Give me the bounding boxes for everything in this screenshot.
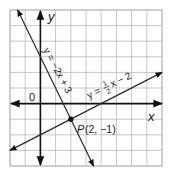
point-coords-label: (2, −1)	[85, 123, 116, 135]
intersection-point	[68, 117, 73, 122]
line2-equation-label: y = 1 2 x − 2	[84, 68, 135, 104]
coordinate-graph: y x 0 y = −2x + 3 y = 1 2 x − 2 P (2, −1…	[0, 0, 169, 174]
grid	[10, 10, 162, 166]
point-name-label: P	[77, 123, 85, 135]
line2-frac-num: 1	[101, 79, 108, 87]
x-axis-label: x	[147, 109, 155, 124]
origin-label: 0	[29, 91, 35, 103]
line2-eq-prefix: y =	[85, 85, 102, 101]
y-axis-label: y	[47, 9, 56, 24]
